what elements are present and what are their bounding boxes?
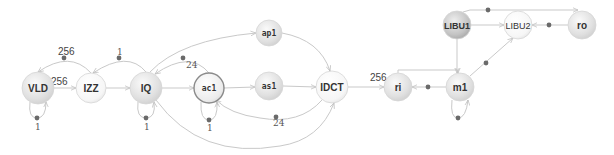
token-dot-icon bbox=[547, 23, 552, 28]
token-dot-icon bbox=[35, 116, 40, 121]
node-label: ac1 bbox=[202, 84, 217, 93]
edge-label: 1 bbox=[207, 123, 213, 133]
token-dot-icon bbox=[486, 8, 491, 13]
node-label: ri bbox=[395, 82, 402, 93]
token-dot-icon bbox=[181, 56, 186, 61]
edge-ac1-to-as1 bbox=[224, 87, 255, 88]
edge-m1-to-libu2 bbox=[470, 38, 513, 76]
edge-ri-to-m1 bbox=[398, 70, 458, 73]
node-izz[interactable]: IZZ bbox=[76, 73, 106, 103]
node-label: IZZ bbox=[84, 83, 99, 94]
node-ri[interactable]: ri bbox=[384, 73, 412, 101]
edges-layer bbox=[30, 8, 578, 149]
edge-label: 24 bbox=[186, 60, 198, 70]
node-iq[interactable]: IQ bbox=[130, 72, 162, 104]
node-ac1[interactable]: ac1 bbox=[194, 73, 224, 103]
node-label: m1 bbox=[453, 82, 468, 93]
node-label: IDCT bbox=[320, 82, 343, 93]
edge-ac1-to-iq bbox=[155, 62, 209, 74]
node-label: ro bbox=[577, 20, 587, 31]
edge-iq-to-iq bbox=[138, 102, 155, 118]
node-as1[interactable]: as1 bbox=[255, 72, 283, 100]
edge-vld-to-vld bbox=[30, 102, 46, 118]
node-m1[interactable]: m1 bbox=[446, 73, 474, 101]
edge-label: 24 bbox=[273, 118, 285, 128]
node-label: LIBU1 bbox=[444, 21, 470, 31]
edge-iq-to-idct bbox=[156, 100, 334, 149]
token-dot-icon bbox=[144, 116, 149, 121]
nodes-layer: VLDIZZIQac1ap1as1IDCTrim1LIBU1LIBU2ro bbox=[22, 11, 596, 104]
dataflow-diagram: 25625611124124256 VLDIZZIQac1ap1as1IDCTr… bbox=[0, 0, 614, 155]
node-ap1[interactable]: ap1 bbox=[256, 20, 282, 46]
edge-ap1-to-idct bbox=[282, 33, 330, 71]
token-dot-icon bbox=[426, 85, 431, 90]
node-label: LIBU2 bbox=[505, 21, 530, 31]
edge-idct-to-ac1 bbox=[216, 100, 322, 120]
token-dot-icon bbox=[484, 61, 489, 66]
edge-label: 1 bbox=[144, 122, 150, 132]
edge-m1-to-m1 bbox=[452, 100, 468, 118]
edge-izz-to-vld bbox=[38, 61, 91, 73]
edge-label: 256 bbox=[370, 72, 387, 83]
edge-label: 1 bbox=[117, 47, 123, 57]
edge-as1-to-idct bbox=[283, 86, 316, 87]
node-vld[interactable]: VLD bbox=[22, 72, 54, 104]
node-label: IQ bbox=[141, 83, 152, 94]
edge-ac1-to-ac1 bbox=[201, 102, 217, 120]
token-dot-icon bbox=[207, 118, 212, 123]
edge-label: 256 bbox=[58, 46, 75, 57]
node-idct[interactable]: IDCT bbox=[316, 71, 348, 103]
node-libu2[interactable]: LIBU2 bbox=[504, 11, 532, 39]
node-label: as1 bbox=[262, 82, 277, 91]
node-libu1[interactable]: LIBU1 bbox=[443, 11, 471, 39]
edge-iq-to-izz bbox=[93, 61, 146, 73]
node-label: VLD bbox=[28, 83, 48, 94]
edge-iq-to-ap1 bbox=[150, 33, 256, 72]
node-label: ap1 bbox=[262, 29, 277, 38]
token-dot-icon bbox=[456, 116, 461, 121]
node-ro[interactable]: ro bbox=[568, 11, 596, 39]
edge-label: 1 bbox=[35, 122, 41, 132]
